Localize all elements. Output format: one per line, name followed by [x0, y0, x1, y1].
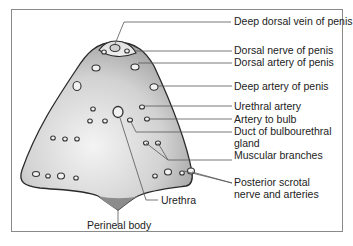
label-posterior-line2: nerve and arteries — [234, 189, 319, 200]
label-deep-dorsal-vein: Deep dorsal vein of penis — [234, 16, 353, 27]
label-dorsal-nerve: Dorsal nerve of penis — [234, 45, 333, 56]
label-duct-line2: gland — [234, 138, 260, 149]
label-duct-line1: Duct of bulbourethral — [234, 126, 331, 137]
label-artery-to-bulb: Artery to bulb — [234, 114, 296, 125]
label-posterior-line1: Posterior scrotal — [234, 177, 310, 188]
label-perineal-body: Perineal body — [87, 220, 151, 231]
label-muscular-branches: Muscular branches — [234, 150, 323, 161]
label-dorsal-artery: Dorsal artery of penis — [234, 57, 334, 68]
label-urethra: Urethra — [161, 195, 196, 206]
body-outline — [21, 42, 193, 210]
label-urethral-artery: Urethral artery — [234, 101, 301, 112]
label-deep-artery: Deep artery of penis — [234, 81, 329, 92]
